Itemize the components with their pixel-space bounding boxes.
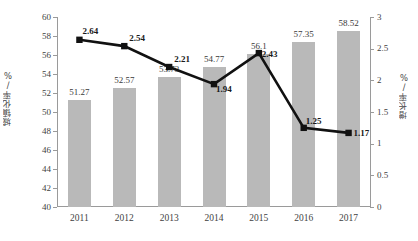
y-axis-right-tick	[370, 207, 374, 208]
line-marker	[166, 64, 172, 70]
line-value-label: 1.17	[354, 129, 370, 138]
figure-caption	[0, 233, 418, 241]
y-axis-left-tick-label: 44	[42, 165, 51, 174]
y-axis-right-tick-label: 2	[377, 76, 382, 85]
y-axis-left-tick-label: 46	[42, 146, 51, 155]
line-marker	[76, 37, 82, 43]
y-axis-left-title: 城镇化率/%	[2, 70, 14, 126]
y-axis-left-tick-label: 60	[42, 13, 51, 22]
x-axis-category-label: 2017	[326, 213, 371, 223]
x-axis-category-label: 2013	[147, 213, 192, 223]
y-axis-left-tick-label: 52	[42, 89, 51, 98]
y-axis-left-tick-label: 56	[42, 51, 51, 60]
line-value-label: 1.94	[216, 85, 232, 94]
y-axis-left-tick-label: 40	[42, 203, 51, 212]
plot-area: 4042444648505254565860 00.511.522.53 51.…	[57, 17, 371, 207]
line-value-label: 2.43	[262, 50, 278, 59]
line-value-label: 2.64	[82, 27, 98, 36]
x-axis-category-label: 2014	[192, 213, 237, 223]
line-marker	[345, 130, 351, 136]
y-axis-right-tick-label: 2.5	[377, 44, 388, 53]
y-axis-right-tick-label: 1.5	[377, 108, 388, 117]
x-axis-category-label: 2011	[57, 213, 102, 223]
y-axis-left-tick	[53, 207, 57, 208]
x-axis-category-label: 2012	[102, 213, 147, 223]
line-marker	[121, 43, 127, 49]
line-value-label: 2.54	[129, 34, 145, 43]
y-axis-left-tick-label: 54	[42, 70, 51, 79]
line-value-label: 2.21	[174, 55, 190, 64]
y-axis-left-tick-label: 58	[42, 32, 51, 41]
y-axis-right-tick-label: 0	[377, 203, 382, 212]
y-axis-right-tick-label: 1	[377, 139, 382, 148]
line-series	[57, 17, 371, 207]
y-axis-left-tick-label: 48	[42, 127, 51, 136]
y-axis-left-tick-label: 50	[42, 108, 51, 117]
y-axis-right-tick-label: 0.5	[377, 171, 388, 180]
y-axis-right-tick-label: 3	[377, 13, 382, 22]
x-axis-category-label: 2015	[236, 213, 281, 223]
line-value-label: 1.25	[306, 117, 322, 126]
y-axis-right-title: 增长率/%	[398, 72, 410, 119]
x-axis-category-label: 2016	[281, 213, 326, 223]
y-axis-left-tick-label: 42	[42, 184, 51, 193]
chart-container: 城镇化率/% 增长率/% 4042444648505254565860 00.5…	[0, 0, 418, 241]
